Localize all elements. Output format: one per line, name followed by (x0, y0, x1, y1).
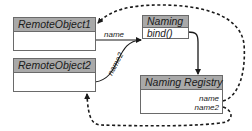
edge-label-name: name (104, 30, 125, 39)
class-remoteobject1[interactable]: RemoteObject1 (13, 17, 96, 51)
edge-label-name2: name2 (106, 51, 126, 77)
class-remoteobject2[interactable]: RemoteObject2 (13, 58, 96, 92)
class-naming[interactable]: Naming bind() (142, 15, 189, 39)
link-naming-to-registry (188, 32, 198, 74)
class-title: RemoteObject1 (14, 18, 95, 32)
method-bind: bind() (143, 28, 188, 39)
class-body: name name2 (141, 90, 222, 114)
class-title: RemoteObject2 (14, 59, 95, 73)
attribute-name: name (199, 94, 219, 103)
class-title: Naming Registry (141, 76, 222, 90)
class-naming-registry[interactable]: Naming Registry name name2 (140, 75, 223, 114)
class-title: Naming (143, 16, 188, 28)
attribute-name2: name2 (195, 103, 219, 112)
